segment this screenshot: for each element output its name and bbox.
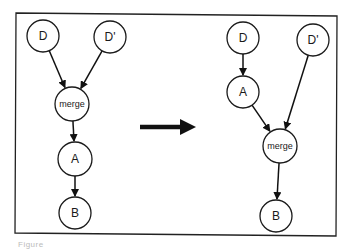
right-edges xyxy=(243,54,308,199)
node-label: B xyxy=(272,209,280,223)
node-label: D xyxy=(239,31,248,45)
node-label: B xyxy=(71,206,79,220)
left-node-Dp: D' xyxy=(94,21,126,53)
left-edge-merge-to-A xyxy=(73,121,74,141)
right-edge-Dp-to-merge xyxy=(285,55,308,129)
right-node-Dp: D' xyxy=(297,24,329,56)
node-label: D xyxy=(39,29,48,43)
node-label: D' xyxy=(308,33,319,47)
right-node-D: D xyxy=(227,22,259,54)
left-edge-D-to-merge xyxy=(49,51,65,88)
right-node-B: B xyxy=(260,200,292,232)
figure-caption: Figure xyxy=(18,240,44,249)
left-edge-Dp-to-merge xyxy=(81,51,102,88)
left-node-merge: merge xyxy=(55,87,89,121)
node-label: merge xyxy=(59,99,85,109)
node-label: A xyxy=(239,85,247,99)
right-node-merge: merge xyxy=(263,129,297,163)
right-nodes: DD'AmergeB xyxy=(227,22,329,232)
node-label: merge xyxy=(267,141,293,151)
right-edge-merge-to-B xyxy=(277,163,279,199)
right-graph-after: DD'AmergeB xyxy=(227,22,329,232)
graph-transformation-diagram: DD'mergeAB DD'AmergeB xyxy=(0,0,347,249)
node-label: D' xyxy=(105,30,116,44)
node-label: A xyxy=(71,152,79,166)
left-graph-before: DD'mergeAB xyxy=(27,20,126,229)
right-edge-A-to-merge xyxy=(252,105,270,131)
right-node-A: A xyxy=(227,76,259,108)
left-node-A: A xyxy=(58,142,92,176)
left-node-D: D xyxy=(27,20,59,52)
left-nodes: DD'mergeAB xyxy=(27,20,126,229)
left-node-B: B xyxy=(59,197,91,229)
